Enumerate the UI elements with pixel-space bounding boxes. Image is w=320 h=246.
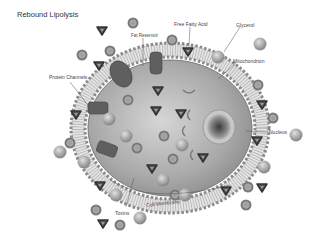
label-free-fatty-acid: Free Fatty Acid — [174, 21, 208, 27]
nucleus — [203, 110, 235, 144]
label-nucleus: Nucleus — [269, 129, 287, 135]
label-mitochondrion: Mitochondrion — [233, 58, 264, 64]
label-fat-reservoir: Fat Reservoir — [131, 33, 158, 38]
label-protein-channels: Protein Channels — [49, 74, 87, 80]
label-toxins: Toxins — [115, 210, 129, 216]
label-glycerol: Glycerol — [236, 22, 254, 28]
cell-diagram — [0, 0, 320, 246]
